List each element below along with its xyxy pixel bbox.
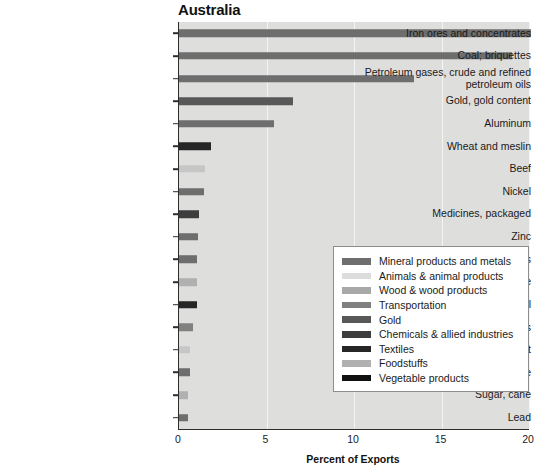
y-axis-tick: [173, 78, 178, 80]
y-axis-label: Zinc: [364, 231, 540, 243]
bar: [179, 233, 198, 241]
legend-swatch: [342, 331, 371, 338]
bar: [179, 256, 197, 264]
x-axis-tick-label: 5: [263, 433, 269, 445]
chart-title: Australia: [178, 1, 240, 18]
y-axis-tick: [173, 304, 178, 306]
legend-item: Vegetable products: [342, 371, 522, 386]
bar: [179, 120, 274, 128]
x-axis-tick-label: 15: [435, 433, 447, 445]
y-axis-tick: [173, 146, 178, 148]
y-axis-tick: [173, 33, 178, 35]
legend-label: Foodstuffs: [379, 357, 428, 369]
legend-label: Chemicals & allied industries: [379, 328, 513, 340]
y-axis-label: Wheat and meslin: [364, 141, 540, 153]
chart-legend: Mineral products and metalsAnimals & ani…: [333, 246, 529, 392]
y-axis-tick: [173, 123, 178, 125]
y-axis-tick: [173, 100, 178, 102]
bar: [179, 369, 190, 377]
y-axis-tick: [173, 259, 178, 261]
bar: [179, 301, 197, 309]
x-axis-tick-label: 10: [347, 433, 359, 445]
legend-swatch: [342, 360, 371, 367]
y-axis-label: Iron ores and concentrates: [364, 28, 540, 40]
legend-swatch: [342, 302, 371, 309]
y-axis-label: Lead: [364, 412, 540, 424]
bar: [179, 165, 205, 173]
bar: [179, 278, 197, 286]
y-axis-tick: [173, 394, 178, 396]
bar: [179, 188, 204, 196]
bar: [179, 210, 199, 218]
y-axis-tick: [173, 349, 178, 351]
legend-item: Animals & animal products: [342, 269, 522, 284]
legend-item: Transportation: [342, 298, 522, 313]
legend-label: Mineral products and metals: [379, 255, 511, 267]
bar: [179, 143, 211, 151]
legend-item: Gold: [342, 312, 522, 327]
legend-swatch: [342, 287, 371, 294]
x-axis-title: Percent of Exports: [178, 453, 528, 465]
bar: [179, 323, 193, 331]
bar: [179, 391, 188, 399]
legend-item: Chemicals & allied industries: [342, 327, 522, 342]
legend-label: Animals & animal products: [379, 270, 503, 282]
bar: [179, 97, 293, 105]
y-axis-label: Beef: [364, 163, 540, 175]
legend-swatch: [342, 316, 371, 323]
legend-label: Gold: [379, 314, 401, 326]
y-axis-tick: [173, 236, 178, 238]
y-axis-label: Gold, gold content: [364, 95, 540, 107]
y-axis-label: Nickel: [364, 186, 540, 198]
bar: [179, 346, 190, 354]
x-axis-tick-label: 0: [175, 433, 181, 445]
y-axis-label: Medicines, packaged: [364, 208, 540, 220]
y-axis-tick: [173, 55, 178, 57]
legend-swatch: [342, 258, 371, 265]
legend-swatch: [342, 375, 371, 382]
legend-item: Mineral products and metals: [342, 254, 522, 269]
legend-swatch: [342, 273, 371, 280]
legend-item: Wood & wood products: [342, 283, 522, 298]
y-axis-tick: [173, 326, 178, 328]
y-axis-label: Petroleum gases, crude and refined petro…: [364, 67, 540, 90]
bar-chart: Australia Iron ores and concentratesCoal…: [0, 0, 540, 475]
x-axis-tick-label: 20: [522, 433, 534, 445]
y-axis-label: Coal; briquettes: [364, 50, 540, 62]
legend-item: Foodstuffs: [342, 356, 522, 371]
y-axis-tick: [173, 191, 178, 193]
legend-swatch: [342, 346, 371, 353]
bar: [179, 414, 188, 422]
legend-label: Textiles: [379, 343, 414, 355]
y-axis-tick: [173, 372, 178, 374]
y-axis-tick: [173, 168, 178, 170]
legend-item: Textiles: [342, 342, 522, 357]
legend-label: Vegetable products: [379, 372, 469, 384]
y-axis-label: Aluminum: [364, 118, 540, 130]
legend-label: Wood & wood products: [379, 284, 487, 296]
y-axis-tick: [173, 281, 178, 283]
y-axis-tick: [173, 417, 178, 419]
legend-label: Transportation: [379, 299, 446, 311]
y-axis-tick: [173, 213, 178, 215]
